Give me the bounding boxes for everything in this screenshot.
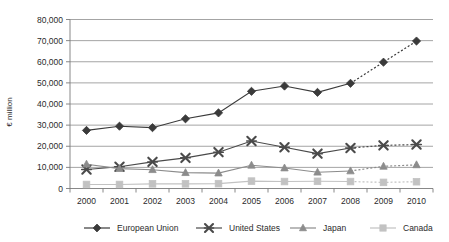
y-tick-label: 80,000 <box>37 15 63 25</box>
y-axis-title-text: € million <box>5 97 14 126</box>
data-point-x-cross-marker <box>280 143 290 151</box>
data-point-x-cross-marker <box>346 144 356 152</box>
legend-item-canada[interactable]: Canada <box>370 223 433 233</box>
y-tick-label: 10,000 <box>37 162 63 172</box>
data-point-x-cross-marker <box>379 141 389 149</box>
data-point-diamond-marker <box>93 224 101 232</box>
data-point-square-marker <box>149 181 156 188</box>
data-point-square-marker <box>314 178 321 185</box>
data-point-x-cross-marker <box>214 148 224 156</box>
data-point-diamond-marker <box>379 58 387 66</box>
x-tick-label: 2009 <box>374 196 393 206</box>
data-point-diamond-marker <box>412 37 420 45</box>
x-axis-tick-labels: 2000200120022003200420052006200720082009… <box>77 196 426 206</box>
data-point-x-cross-marker <box>412 140 422 148</box>
y-axis-title: € million <box>5 97 14 126</box>
data-point-diamond-marker <box>82 126 90 134</box>
y-tick-label: 0 <box>58 184 63 194</box>
data-point-triangle-marker <box>248 161 255 168</box>
legend-label: United States <box>229 223 280 233</box>
line-chart: 010,00020,00030,00040,00050,00060,00070,… <box>0 0 449 242</box>
legend-item-united-states[interactable]: United States <box>196 223 280 233</box>
series-line-solid <box>87 83 351 130</box>
x-tick-label: 2000 <box>77 196 96 206</box>
y-tick-label: 70,000 <box>37 36 63 46</box>
x-tick-label: 2006 <box>275 196 294 206</box>
data-point-triangle-marker <box>380 162 387 169</box>
data-point-square-marker <box>347 178 354 185</box>
data-point-square-marker <box>215 180 222 187</box>
y-tick-label: 30,000 <box>37 120 63 130</box>
x-tick-label: 2007 <box>308 196 327 206</box>
x-tick-label: 2004 <box>209 196 228 206</box>
data-point-square-marker <box>116 181 123 188</box>
data-point-x-cross-marker <box>247 137 257 145</box>
data-point-square-marker <box>380 179 387 186</box>
data-point-x-cross-marker <box>313 149 323 157</box>
x-tick-label: 2001 <box>110 196 129 206</box>
legend-label: Canada <box>403 223 433 233</box>
legend-item-european-union[interactable]: European Union <box>84 223 179 233</box>
chart-canvas: 010,00020,00030,00040,00050,00060,00070,… <box>0 0 449 242</box>
data-point-diamond-marker <box>181 115 189 123</box>
data-point-triangle-marker <box>413 161 420 168</box>
data-point-x-cross-marker <box>204 224 213 232</box>
chart-legend: European UnionUnited StatesJapanCanada <box>84 223 433 233</box>
data-point-diamond-marker <box>247 87 255 95</box>
legend-label: European Union <box>117 223 179 233</box>
data-point-diamond-marker <box>346 79 354 87</box>
x-tick-label: 2005 <box>242 196 261 206</box>
y-tick-label: 40,000 <box>37 99 63 109</box>
data-point-diamond-marker <box>313 88 321 96</box>
series-canada <box>83 178 420 188</box>
series-japan <box>83 160 420 176</box>
x-tick-label: 2010 <box>407 196 426 206</box>
data-point-square-marker <box>248 178 255 185</box>
data-point-square-marker <box>380 225 386 231</box>
data-point-triangle-marker <box>347 167 354 174</box>
series-line-solid <box>87 141 351 170</box>
y-tick-label: 60,000 <box>37 57 63 67</box>
data-point-square-marker <box>281 178 288 185</box>
legend-item-japan[interactable]: Japan <box>290 223 346 233</box>
data-point-x-cross-marker <box>148 158 158 166</box>
data-point-square-marker <box>182 181 189 188</box>
data-point-square-marker <box>83 181 90 188</box>
x-tick-label: 2003 <box>176 196 195 206</box>
data-point-diamond-marker <box>214 109 222 117</box>
y-axis-tick-labels: 010,00020,00030,00040,00050,00060,00070,… <box>37 15 63 194</box>
y-tick-label: 20,000 <box>37 141 63 151</box>
series-european-union <box>82 37 420 135</box>
data-point-diamond-marker <box>115 122 123 130</box>
data-point-triangle-marker <box>83 160 90 167</box>
x-tick-label: 2008 <box>341 196 360 206</box>
y-tick-label: 50,000 <box>37 78 63 88</box>
data-point-x-cross-marker <box>181 154 191 162</box>
data-point-square-marker <box>413 178 420 185</box>
x-tick-label: 2002 <box>143 196 162 206</box>
legend-label: Japan <box>323 223 346 233</box>
data-series <box>82 37 422 188</box>
